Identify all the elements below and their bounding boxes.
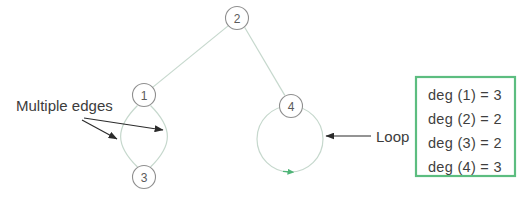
loop-direction-arrowhead-icon — [283, 171, 291, 172]
loop-label: Loop — [376, 128, 409, 145]
node-2[interactable]: 2 — [226, 7, 249, 30]
degree-entry-1: deg (1) = 3 — [428, 87, 502, 103]
annotation-loop: Loop — [326, 128, 409, 145]
node-4[interactable]: 4 — [280, 95, 303, 118]
edge-1-3-right — [151, 106, 168, 168]
graph-diagram-canvas: 1 2 3 4 Multiple edges Loop — [0, 0, 530, 200]
node-1[interactable]: 1 — [133, 84, 156, 107]
multiple-edges-arrow-1 — [82, 120, 117, 139]
node-1-label: 1 — [141, 89, 148, 103]
node-2-label: 2 — [234, 12, 241, 26]
multiple-edges-label: Multiple edges — [16, 97, 113, 114]
node-3-label: 3 — [141, 171, 148, 185]
degree-legend: deg (1) = 3 deg (2) = 2 deg (3) = 2 deg … — [416, 77, 515, 176]
graph-figure: 1 2 3 4 Multiple edges Loop — [0, 0, 530, 200]
degree-entry-2: deg (2) = 2 — [428, 111, 502, 127]
edge-2-4 — [245, 27, 285, 95]
degree-entry-4: deg (4) = 3 — [428, 159, 502, 175]
node-3[interactable]: 3 — [133, 166, 156, 189]
edge-1-3-left — [121, 106, 138, 168]
degree-entry-3: deg (3) = 2 — [428, 135, 502, 151]
edge-2-1 — [153, 26, 229, 88]
multiple-edges-arrow-2 — [84, 118, 163, 130]
node-4-label: 4 — [288, 100, 295, 114]
